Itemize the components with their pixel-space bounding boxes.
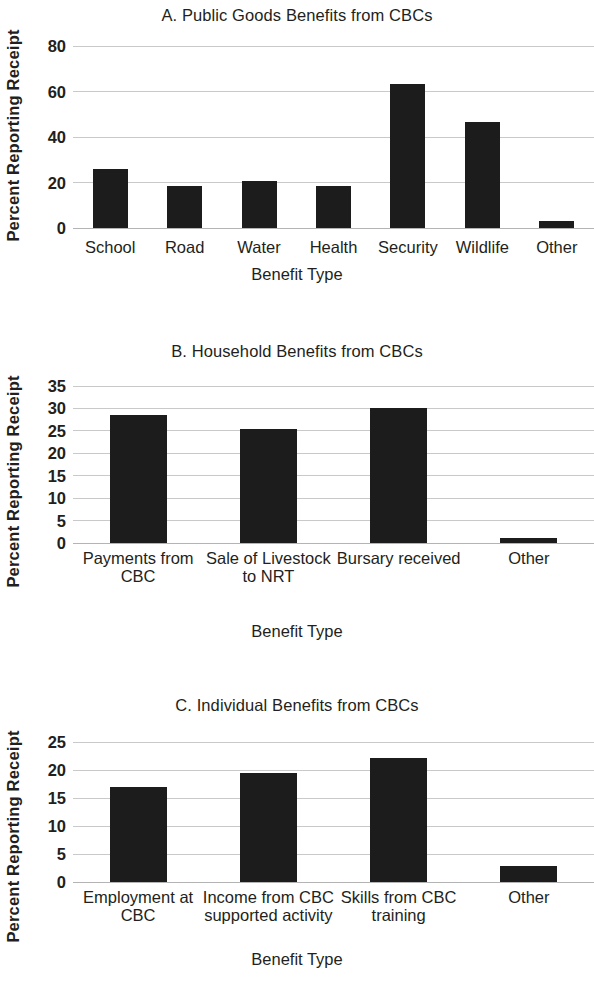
chart-panel-c: C. Individual Benefits from CBCs Percent… [0,688,594,981]
bar [539,221,574,228]
y-axis-ticks-a: 020406080 [26,44,70,234]
figure-container: A. Public Goods Benefits from CBCs Perce… [0,0,594,981]
x-tick-label: Payments from CBC [70,549,206,586]
bar [370,758,427,882]
plot-canvas-c [73,742,594,882]
y-tick-label: 20 [48,445,66,462]
x-tick-label: Road [144,238,224,256]
plot-area-a: 020406080 [26,44,594,234]
y-tick-label: 15 [48,467,66,484]
x-tick-label: Water [219,238,299,256]
y-tick-label: 10 [48,818,66,835]
plot-canvas-a [73,46,594,228]
y-tick-label: 15 [48,790,66,807]
x-axis-title-a: Benefit Type [0,265,594,284]
y-tick-label: 80 [48,38,66,55]
y-tick-label: 60 [48,83,66,100]
bar-series-b [73,386,594,543]
x-tick-label: Sale of Livestock to NRT [200,549,336,586]
x-tick-label: Income from CBC supported activity [200,888,336,925]
bar-series-a [73,46,594,228]
plot-area-c: 0510152025 [26,740,594,888]
x-tick-label: Bursary received [331,549,467,567]
y-tick-label: 5 [57,512,66,529]
bar [465,122,500,228]
y-tick-label: 5 [57,846,66,863]
y-axis-ticks-b: 05101520253035 [26,384,70,549]
y-tick-label: 40 [48,129,66,146]
bar [500,866,557,882]
y-tick-label: 10 [48,490,66,507]
x-axis-labels-a: SchoolRoadWaterHealthSecurityWildlifeOth… [0,238,594,264]
y-tick-label: 25 [48,734,66,751]
x-tick-label: Other [461,549,594,567]
x-axis-title-c: Benefit Type [0,950,594,969]
y-tick-label: 0 [57,220,66,237]
chart-title-a: A. Public Goods Benefits from CBCs [0,6,594,25]
bar [93,169,128,228]
bar [242,181,277,228]
y-tick-label: 30 [48,400,66,417]
y-axis-title-a: Percent Reporting Receipt [0,38,26,233]
x-tick-label: Security [368,238,448,256]
bar [240,773,297,882]
x-tick-label: Skills from CBC training [331,888,467,925]
y-axis-ticks-c: 0510152025 [26,740,70,888]
chart-title-c: C. Individual Benefits from CBCs [0,696,594,715]
bar [500,538,557,543]
x-tick-label: Employment at CBC [70,888,206,925]
bar-series-c [73,742,594,882]
plot-area-b: 05101520253035 [26,384,594,549]
x-tick-label: School [70,238,150,256]
bar [110,415,167,543]
bar [110,787,167,882]
chart-panel-b: B. Household Benefits from CBCs Percent … [0,334,594,680]
x-tick-label: Other [461,888,594,906]
y-tick-label: 20 [48,762,66,779]
bar [240,429,297,543]
bar [316,186,351,228]
chart-title-b: B. Household Benefits from CBCs [0,342,594,361]
x-axis-labels-b: Payments from CBCSale of Livestock to NR… [0,549,594,611]
x-axis-labels-c: Employment at CBCIncome from CBC support… [0,888,594,950]
x-tick-label: Other [517,238,594,256]
y-tick-label: 20 [48,174,66,191]
plot-canvas-b [73,386,594,543]
chart-panel-a: A. Public Goods Benefits from CBCs Perce… [0,0,594,330]
bar [390,84,425,228]
bar [370,408,427,543]
y-tick-label: 25 [48,423,66,440]
x-tick-label: Wildlife [442,238,522,256]
y-axis-title-a-text: Percent Reporting Receipt [4,29,23,241]
x-tick-label: Health [293,238,373,256]
x-axis-title-b: Benefit Type [0,622,594,641]
bar [167,186,202,228]
y-tick-label: 35 [48,378,66,395]
